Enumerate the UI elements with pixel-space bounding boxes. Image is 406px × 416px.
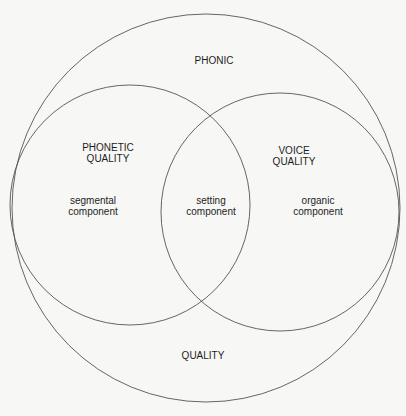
label-phonetic-line1: PHONETIC (82, 142, 134, 153)
label-segmental-line1: segmental (68, 195, 117, 206)
label-organic-component: organic component (293, 195, 342, 217)
label-phonic-text: PHONIC (195, 55, 234, 66)
label-organic-line2: component (293, 206, 342, 217)
label-setting-line2: component (186, 206, 235, 217)
label-setting-component: setting component (186, 195, 235, 217)
label-voice-line1: VOICE (273, 145, 316, 156)
label-quality-text: QUALITY (182, 350, 225, 361)
label-voice-line2: QUALITY (273, 156, 316, 167)
label-segmental-component: segmental component (68, 195, 117, 217)
label-organic-line1: organic (293, 195, 342, 206)
label-segmental-line2: component (68, 206, 117, 217)
label-quality: QUALITY (182, 350, 225, 361)
label-voice-quality: VOICE QUALITY (273, 145, 316, 167)
label-phonic: PHONIC (195, 55, 234, 66)
label-phonetic-line2: QUALITY (82, 153, 134, 164)
label-phonetic-quality: PHONETIC QUALITY (82, 142, 134, 164)
label-setting-line1: setting (186, 195, 235, 206)
